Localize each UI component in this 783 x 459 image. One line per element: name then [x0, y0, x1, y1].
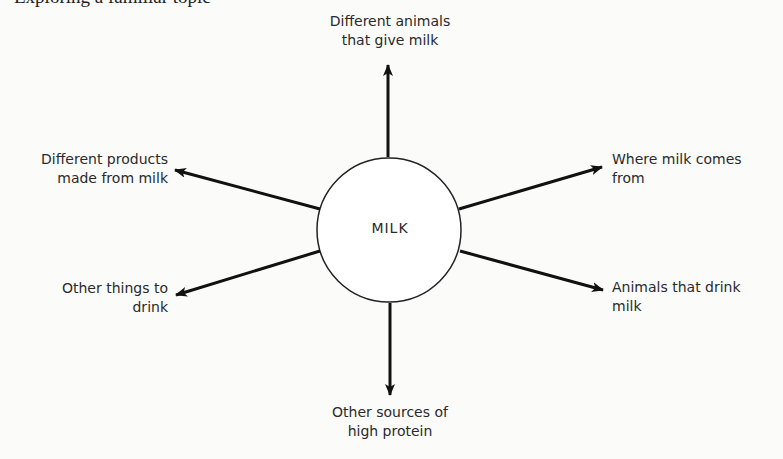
arrow-lower-left [176, 251, 320, 295]
arrow-upper-left [175, 170, 320, 209]
arrow-upper-right [459, 167, 602, 209]
label-line: from [612, 169, 742, 188]
label-line: Different animals [290, 12, 490, 31]
label-line: made from milk [10, 169, 168, 188]
label-line: drink [10, 298, 168, 317]
branch-label-upper-right: Where milk comes from [612, 150, 742, 188]
branch-label-bottom: Other sources of high protein [290, 403, 490, 441]
branch-label-lower-right: Animals that drink milk [612, 278, 741, 316]
label-line: high protein [290, 422, 490, 441]
branch-label-lower-left: Other things to drink [10, 279, 168, 317]
arrow-lower-right [460, 251, 603, 290]
branch-label-top: Different animals that give milk [290, 12, 490, 50]
label-line: Animals that drink [612, 278, 741, 297]
label-line: that give milk [290, 31, 490, 50]
label-line: Where milk comes [612, 150, 742, 169]
label-line: milk [612, 297, 741, 316]
label-line: Other things to [10, 279, 168, 298]
label-line: Different products [10, 150, 168, 169]
label-line: Other sources of [290, 403, 490, 422]
center-label: MILK [340, 220, 440, 236]
branch-label-upper-left: Different products made from milk [10, 150, 168, 188]
